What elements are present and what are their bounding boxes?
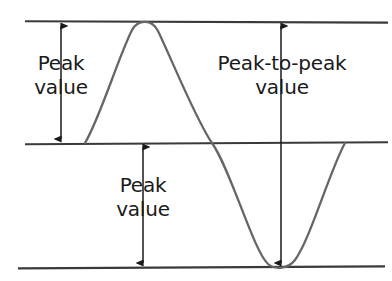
sine-wave-group: [85, 22, 345, 268]
sine-wave-path: [85, 22, 345, 268]
zero-axis-line: [25, 142, 388, 144]
reference-lines-group: [18, 21, 388, 268]
positive-peak-line: [25, 21, 388, 22]
waveform-diagram: Peak value Peak-to-peak value Peak value: [0, 0, 392, 281]
negative-peak-line: [18, 266, 385, 268]
waveform-graphic: [0, 0, 392, 281]
